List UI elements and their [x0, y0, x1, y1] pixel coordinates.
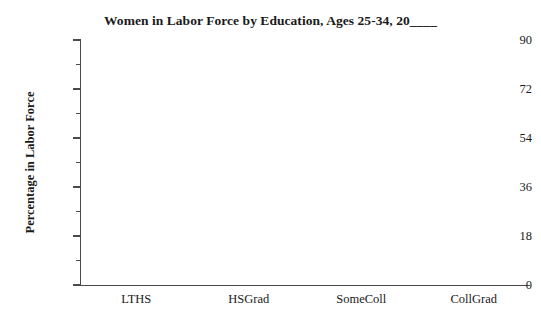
x-axis-category-label: SomeColl — [305, 290, 418, 310]
y-axis-tick-label: 18 — [475, 229, 541, 243]
plot-area — [80, 40, 530, 285]
y-axis-major-tick — [73, 284, 81, 285]
chart-figure: Women in Labor Force by Education, Ages … — [0, 0, 541, 331]
y-axis-major-tick — [73, 235, 81, 236]
y-axis-tick-label: 72 — [475, 82, 541, 96]
x-axis-category-label: CollGrad — [418, 290, 531, 310]
x-axis-tick-labels: LTHSHSGradSomeCollCollGrad — [80, 290, 530, 310]
y-axis-minor-tick — [76, 162, 81, 163]
y-axis-major-tick — [73, 137, 81, 138]
y-axis-major-tick — [73, 88, 81, 89]
chart-title: Women in Labor Force by Education, Ages … — [0, 12, 541, 30]
y-axis-minor-tick — [76, 260, 81, 261]
y-axis-minor-tick — [76, 113, 81, 114]
y-axis-major-tick — [73, 186, 81, 187]
y-axis-tick-label: 54 — [475, 131, 541, 145]
y-axis-minor-tick — [76, 64, 81, 65]
x-axis-category-label: LTHS — [80, 290, 193, 310]
x-axis-line — [80, 285, 530, 286]
y-axis-title: Percentage in Labor Force — [20, 47, 40, 278]
y-axis-major-tick — [73, 39, 81, 40]
x-axis-category-label: HSGrad — [193, 290, 306, 310]
y-axis-tick-label: 90 — [475, 33, 541, 47]
y-axis-minor-tick — [76, 211, 81, 212]
y-axis-tick-label: 36 — [475, 180, 541, 194]
